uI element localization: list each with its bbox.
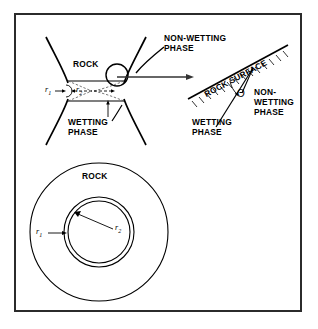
r1-arrowhead (62, 89, 66, 93)
detail-wetting-label-line2: PHASE (192, 128, 222, 138)
bottom-rock-label: ROCK (82, 172, 107, 182)
top-nonwetting-label-line2: PHASE (164, 44, 194, 54)
top-r2-label: r2 (76, 85, 82, 96)
callout-arrow-head (186, 74, 194, 80)
figure-frame: ROCK NON-WETTING PHASE WETTING PHASE r1 … (14, 13, 302, 312)
wetting-leader-line (112, 105, 122, 121)
left-grain-upper-curve (46, 37, 68, 83)
detail-nonwetting-label-line3: PHASE (254, 108, 284, 118)
bottom-r2-label: r2 (115, 223, 121, 234)
figure-root: ROCK NON-WETTING PHASE WETTING PHASE r1 … (0, 0, 318, 329)
right-grain-lower-curve (124, 99, 146, 145)
top-r1-label: r1 (45, 85, 51, 96)
magnifier-circle (106, 64, 128, 86)
diagram-canvas (16, 15, 300, 310)
bottom-r2-leader-line (78, 214, 113, 229)
middle-circle (64, 197, 134, 267)
meniscus-lower-right (94, 91, 124, 101)
bottom-r1-label: r1 (36, 227, 42, 238)
top-rock-label: ROCK (73, 60, 98, 70)
left-grain-lower-curve (46, 99, 68, 145)
top-wetting-label-line2: PHASE (68, 128, 98, 138)
outer-rock-circle (30, 163, 168, 301)
contact-angle-symbol: Θ (237, 88, 245, 99)
bottom-r2-arrowhead (74, 211, 81, 217)
r2-arrowhead-right (111, 89, 115, 93)
nonwetting-leader-top (136, 47, 164, 73)
